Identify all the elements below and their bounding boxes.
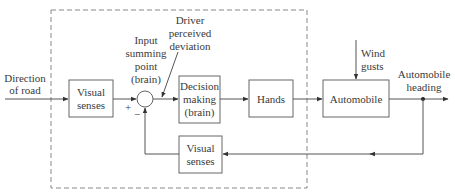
- automobile-block: Automobile: [323, 80, 389, 117]
- plus-sign: +: [125, 101, 131, 113]
- visual-senses-forward-line2: senses: [77, 99, 105, 111]
- hands-label: Hands: [257, 93, 285, 105]
- visual-senses-feedback-block: Visual senses: [179, 136, 222, 173]
- summing-junction: [137, 91, 153, 107]
- output-label-line2: heading: [407, 81, 442, 93]
- feedback-to-sum-arrow: [145, 108, 179, 154]
- decision-block: Decision making (brain): [179, 76, 220, 123]
- deviation-label-line3: deviation: [170, 40, 211, 52]
- wind-gusts-line2: gusts: [361, 60, 384, 72]
- input-label-line2: of road: [9, 84, 41, 96]
- visual-senses-feedback-line1: Visual: [186, 142, 214, 154]
- wind-gusts-line1: Wind: [361, 47, 385, 59]
- decision-line3: (brain): [185, 106, 215, 119]
- summing-label-line2: summing: [126, 47, 167, 59]
- decision-line2: making: [183, 93, 216, 105]
- automobile-label: Automobile: [330, 93, 383, 105]
- hands-block: Hands: [249, 80, 293, 117]
- summing-label-line1: Input: [134, 34, 157, 46]
- minus-sign: −: [134, 108, 140, 120]
- visual-senses-feedback-line2: senses: [186, 155, 214, 167]
- deviation-label-line2: perceived: [169, 27, 212, 39]
- input-label-line1: Direction: [4, 72, 46, 84]
- visual-senses-forward-block: Visual senses: [69, 80, 113, 117]
- diagram-canvas: Direction of road Visual senses + − Inpu…: [0, 0, 455, 196]
- visual-senses-forward-line1: Visual: [77, 86, 105, 98]
- output-label-line1: Automobile: [398, 68, 451, 80]
- summing-label-line3: point: [135, 60, 158, 72]
- deviation-label-line1: Driver: [176, 14, 205, 26]
- block-diagram: Direction of road Visual senses + − Inpu…: [0, 0, 455, 196]
- decision-line1: Decision: [180, 80, 220, 92]
- summing-label-line4: (brain): [131, 73, 161, 86]
